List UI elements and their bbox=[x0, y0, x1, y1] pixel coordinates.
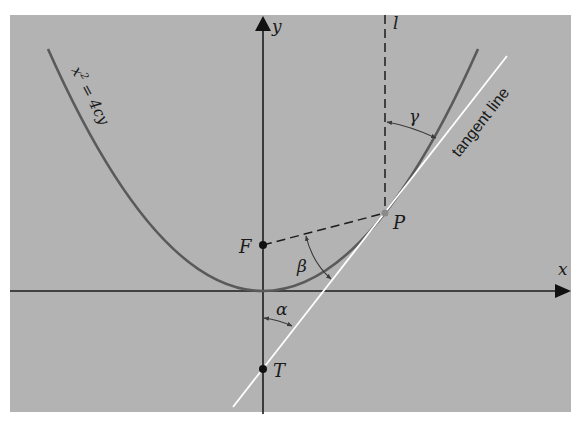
angle-beta-label: β bbox=[296, 256, 307, 276]
line-l-label: l bbox=[393, 13, 398, 33]
point-P-label: P bbox=[392, 212, 406, 233]
angle-alpha-label: α bbox=[276, 299, 288, 319]
point-T-dot-icon bbox=[259, 365, 267, 373]
x-axis-label: x bbox=[558, 259, 568, 279]
angle-gamma-label: γ bbox=[409, 106, 420, 126]
focus-dot-icon bbox=[259, 241, 267, 249]
point-T-label: T bbox=[273, 360, 287, 381]
parabola-diagram: x y l tangent line F P T x2 = 4cy bbox=[0, 0, 581, 426]
diagram-panel bbox=[10, 15, 571, 412]
focus-label: F bbox=[238, 236, 253, 257]
y-axis-label: y bbox=[271, 16, 282, 36]
point-P-dot-icon bbox=[382, 210, 389, 217]
